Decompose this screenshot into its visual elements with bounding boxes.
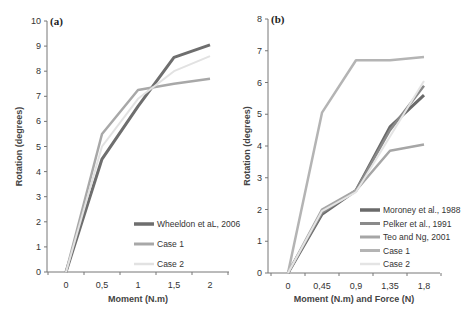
y-tick-label: 6 [36,116,41,126]
legend-label: Moroney et al., 1988 [383,205,461,215]
y-tick-label: 9 [36,41,41,51]
chart-panel-a: 01234567891000,511,52Moment (N.m)Rotatio… [14,15,240,304]
y-tick-label: 5 [257,109,262,119]
y-tick-label: 6 [257,78,262,88]
y-tick-label: 2 [257,205,262,215]
legend-label: Case 1 [383,246,410,256]
y-tick-label: 0 [36,267,41,277]
y-tick-label: 7 [257,46,262,56]
x-tick-label: 2 [207,280,212,290]
x-tick-label: 1,8 [418,281,431,291]
y-tick-label: 7 [36,91,41,101]
legend-label: Case 1 [157,239,184,249]
x-tick-label: 0 [285,281,290,291]
panel-label: (a) [50,15,63,28]
y-tick-label: 2 [36,217,41,227]
legend-label: Case 2 [383,259,410,269]
y-tick-label: 8 [257,14,262,24]
x-axis-title: Moment (N.m) and Force (N) [294,294,415,304]
y-tick-label: 10 [31,16,41,26]
legend-label: Teo and Ng, 2001 [383,232,450,242]
series-line [66,45,210,272]
x-tick-label: 0,5 [96,280,109,290]
legend-label: Wheeldon et aL, 2006 [157,219,240,229]
x-tick-label: 0 [63,280,68,290]
x-tick-label: 1,5 [168,280,181,290]
y-axis-title: Rotation (degrees) [242,106,252,186]
x-tick-label: 1,35 [381,281,399,291]
x-axis-title: Moment (N.m) [108,294,168,304]
x-tick-label: 0,9 [350,281,363,291]
chart-panel-b: 01234567800,450,91,351,8Moment (N.m) and… [242,13,461,304]
legend-label: Case 2 [157,259,184,269]
y-tick-label: 0 [257,268,262,278]
y-tick-label: 8 [36,66,41,76]
y-tick-label: 4 [36,167,41,177]
panel-label: (b) [271,13,285,26]
y-tick-label: 5 [36,142,41,152]
figure: 01234567891000,511,52Moment (N.m)Rotatio… [0,0,461,321]
series-line [66,56,210,272]
y-tick-label: 1 [36,242,41,252]
y-tick-label: 3 [257,173,262,183]
x-tick-label: 0,45 [313,281,331,291]
y-tick-label: 4 [257,141,262,151]
legend-label: Pelker et al., 1991 [383,219,452,229]
x-tick-label: 1 [135,280,140,290]
y-tick-label: 3 [36,192,41,202]
y-tick-label: 1 [257,236,262,246]
y-axis-title: Rotation (degrees) [14,107,24,187]
